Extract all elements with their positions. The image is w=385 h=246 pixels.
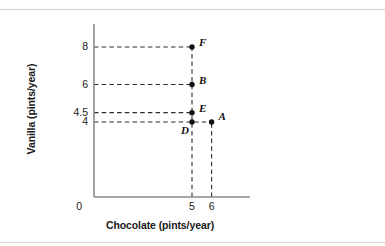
- x-tick-label-6: 6: [202, 200, 222, 212]
- y-tick-label-8: 8: [58, 40, 88, 52]
- data-point-f[interactable]: [189, 44, 194, 49]
- point-label-d: D: [181, 124, 189, 136]
- point-label-b: B: [199, 74, 206, 86]
- data-point-b[interactable]: [189, 82, 194, 87]
- y-axis-title: Vanilla (pints/year): [25, 24, 37, 194]
- point-label-f: F: [199, 36, 206, 48]
- data-point-e[interactable]: [189, 110, 194, 115]
- point-label-a: A: [219, 110, 226, 122]
- point-label-e: E: [199, 102, 206, 114]
- x-axis-title: Chocolate (pints/year): [0, 219, 320, 231]
- y-tick-label-4-5: 4.5: [58, 106, 88, 118]
- data-point-d[interactable]: [189, 119, 194, 124]
- axis-origin-label: 0: [52, 200, 82, 212]
- data-point-a[interactable]: [209, 119, 214, 124]
- chart-screenshot: Chocolate (pints/year) Vanilla (pints/ye…: [0, 0, 385, 246]
- x-tick-label-5: 5: [182, 200, 202, 212]
- y-tick-label-6: 6: [58, 78, 88, 90]
